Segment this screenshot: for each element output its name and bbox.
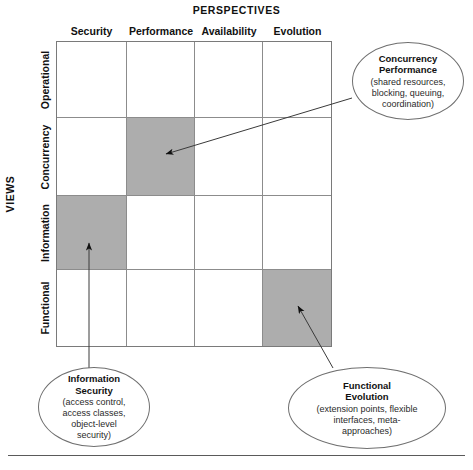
callout-information-security[interactable]: Information Security (access control, ac…: [38, 367, 150, 447]
cell-information-performance[interactable]: [127, 196, 195, 270]
column-header-availability: Availability: [195, 24, 263, 38]
callout-concurrency-performance[interactable]: Concurrency Performance (shared resource…: [352, 42, 464, 120]
cell-information-evolution[interactable]: [263, 196, 331, 270]
row-header-functional: Functional: [38, 263, 52, 353]
cell-concurrency-availability[interactable]: [195, 118, 263, 196]
cell-concurrency-evolution[interactable]: [263, 118, 331, 196]
cell-operational-availability[interactable]: [195, 42, 263, 118]
cell-functional-evolution[interactable]: [263, 270, 331, 346]
diagram-canvas: PERSPECTIVES VIEWS Security Performance …: [0, 0, 473, 470]
callout-title: Information Security: [68, 373, 120, 396]
column-header-security: Security: [56, 24, 127, 38]
callout-detail: (shared resources, blocking, queuing, co…: [370, 77, 445, 110]
cell-functional-availability[interactable]: [195, 270, 263, 346]
cell-concurrency-performance[interactable]: [127, 118, 195, 196]
callout-detail: (access control, access classes, object-…: [62, 397, 125, 441]
callout-title: Functional Evolution: [343, 380, 391, 403]
cell-information-security[interactable]: [57, 196, 127, 270]
views-axis-title: VIEWS: [4, 163, 16, 225]
callout-detail: (extension points, flexible interfaces, …: [316, 404, 417, 437]
cell-information-availability[interactable]: [195, 196, 263, 270]
cell-functional-performance[interactable]: [127, 270, 195, 346]
cell-operational-security[interactable]: [57, 42, 127, 118]
cell-operational-performance[interactable]: [127, 42, 195, 118]
footer-divider: [8, 455, 465, 456]
perspectives-axis-title: PERSPECTIVES: [0, 4, 473, 16]
cell-operational-evolution[interactable]: [263, 42, 331, 118]
cell-concurrency-security[interactable]: [57, 118, 127, 196]
views-perspectives-matrix: [56, 41, 332, 347]
callout-title: Concurrency Performance: [379, 53, 438, 76]
cell-functional-security[interactable]: [57, 270, 127, 346]
column-header-evolution: Evolution: [263, 24, 332, 38]
column-header-performance: Performance: [127, 24, 195, 38]
callout-functional-evolution[interactable]: Functional Evolution (extension points, …: [288, 367, 446, 449]
